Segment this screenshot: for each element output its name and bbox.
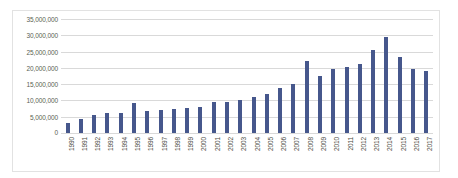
x-axis-tick: 2011	[340, 135, 353, 169]
bar-slot	[340, 19, 353, 133]
x-axis-tick: 1994	[114, 135, 127, 169]
bar[interactable]	[238, 100, 242, 133]
bar[interactable]	[305, 61, 309, 133]
x-axis-tick: 1996	[141, 135, 154, 169]
bar-slot	[406, 19, 419, 133]
x-axis-tick: 2004	[247, 135, 260, 169]
bar-slot	[114, 19, 127, 133]
x-axis-tick: 2015	[393, 135, 406, 169]
x-axis-tick: 2010	[327, 135, 340, 169]
bar[interactable]	[291, 84, 295, 133]
bar-slot	[220, 19, 233, 133]
bar-slot	[367, 19, 380, 133]
x-axis-tick: 2001	[207, 135, 220, 169]
x-axis-tick: 2008	[300, 135, 313, 169]
bar-slot	[194, 19, 207, 133]
x-axis: 1990199119921993199419951996199719981999…	[61, 135, 433, 169]
bar[interactable]	[225, 102, 229, 133]
bar[interactable]	[424, 71, 428, 133]
x-axis-tick: 2002	[220, 135, 233, 169]
x-axis-tick: 2007	[287, 135, 300, 169]
bar[interactable]	[358, 64, 362, 133]
bar[interactable]	[212, 102, 216, 133]
bar[interactable]	[331, 69, 335, 133]
bar-slot	[167, 19, 180, 133]
x-axis-tick: 1990	[61, 135, 74, 169]
bar[interactable]	[119, 113, 123, 133]
bar-slot	[181, 19, 194, 133]
bar-slot	[247, 19, 260, 133]
bar-slot	[61, 19, 74, 133]
chart-container: 35,000,00030,000,00025,000,00020,000,000…	[12, 10, 440, 172]
x-axis-tick: 2013	[367, 135, 380, 169]
bar-slot	[127, 19, 140, 133]
x-axis-tick: 1998	[167, 135, 180, 169]
x-axis-tick: 2017	[420, 135, 433, 169]
bar-slot	[287, 19, 300, 133]
bar-slot	[393, 19, 406, 133]
bar[interactable]	[198, 107, 202, 133]
y-axis-tick-label: 15,000,000	[12, 81, 58, 88]
bar[interactable]	[105, 113, 109, 133]
bar[interactable]	[252, 97, 256, 133]
x-axis-tick: 1997	[154, 135, 167, 169]
bar[interactable]	[318, 76, 322, 133]
bar[interactable]	[345, 67, 349, 133]
bar[interactable]	[265, 94, 269, 133]
y-axis-tick-label: 5,000,000	[12, 114, 58, 121]
plot-area	[61, 19, 433, 133]
x-axis-tick: 2009	[313, 135, 326, 169]
y-axis-tick-label: 25,000,000	[12, 49, 58, 56]
bar-slot	[141, 19, 154, 133]
bar-slot	[300, 19, 313, 133]
bar-slot	[353, 19, 366, 133]
x-axis-tick: 2003	[234, 135, 247, 169]
bar[interactable]	[371, 50, 375, 133]
bar[interactable]	[145, 111, 149, 133]
x-axis-tick: 1993	[101, 135, 114, 169]
x-axis-tick-label: 2017	[426, 137, 433, 151]
y-axis-tick-label: 10,000,000	[12, 97, 58, 104]
bar-slot	[260, 19, 273, 133]
bar-slot	[234, 19, 247, 133]
y-axis-tick-label: 35,000,000	[12, 16, 58, 23]
x-axis-tick: 2016	[406, 135, 419, 169]
x-axis-tick: 1992	[88, 135, 101, 169]
bar[interactable]	[384, 37, 388, 133]
bar-slot	[74, 19, 87, 133]
bar-slot	[101, 19, 114, 133]
x-axis-tick: 1999	[181, 135, 194, 169]
x-axis-tick: 2005	[260, 135, 273, 169]
y-axis-tick-label: 30,000,000	[12, 32, 58, 39]
bar[interactable]	[159, 110, 163, 133]
bar[interactable]	[92, 115, 96, 133]
bar-slot	[274, 19, 287, 133]
bar-slot	[420, 19, 433, 133]
bar[interactable]	[66, 123, 70, 133]
y-axis-tick-label: 20,000,000	[12, 65, 58, 72]
bar-slot	[154, 19, 167, 133]
x-axis-tick: 2006	[274, 135, 287, 169]
bar-slot	[313, 19, 326, 133]
y-axis-zero-label: 0	[13, 129, 58, 136]
x-axis-tick: 2000	[194, 135, 207, 169]
x-axis-tick: 1995	[127, 135, 140, 169]
gridline	[61, 133, 433, 134]
bar-slot	[327, 19, 340, 133]
bar[interactable]	[132, 103, 136, 133]
y-axis: 35,000,00030,000,00025,000,00020,000,000…	[13, 19, 58, 133]
bar[interactable]	[278, 88, 282, 133]
bar[interactable]	[398, 57, 402, 133]
bar-slot	[88, 19, 101, 133]
x-axis-tick: 2014	[380, 135, 393, 169]
bar-slot	[207, 19, 220, 133]
bar[interactable]	[185, 108, 189, 133]
bar[interactable]	[79, 119, 83, 133]
bar[interactable]	[411, 69, 415, 133]
x-axis-tick: 2012	[353, 135, 366, 169]
bar-slot	[380, 19, 393, 133]
bar[interactable]	[172, 109, 176, 133]
x-axis-tick: 1991	[74, 135, 87, 169]
